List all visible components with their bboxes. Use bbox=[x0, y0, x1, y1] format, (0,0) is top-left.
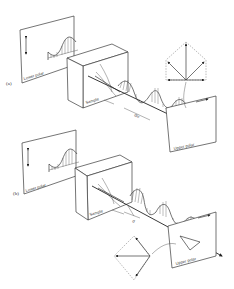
figure: (a) Lower polar bbox=[0, 0, 234, 289]
vector-diagram-a bbox=[166, 42, 206, 108]
panel-a: (a) Lower polar bbox=[6, 16, 216, 152]
path-length-label-b: d bbox=[132, 218, 136, 223]
sample-box-a: Sample bbox=[67, 44, 128, 108]
panel-label-b: (b) bbox=[13, 191, 19, 196]
lower-polar-a bbox=[20, 16, 74, 83]
upper-polar-b: Upper polar bbox=[168, 212, 216, 268]
path-length-label-a: d/c bbox=[134, 112, 141, 119]
vector-diagram-b bbox=[114, 236, 176, 280]
panel-b: (b) Lower polar Sample bbox=[13, 130, 222, 280]
lower-polar-b bbox=[22, 130, 76, 194]
sample-box-b: Sample bbox=[75, 155, 132, 220]
panel-label-a: (a) bbox=[6, 81, 12, 86]
